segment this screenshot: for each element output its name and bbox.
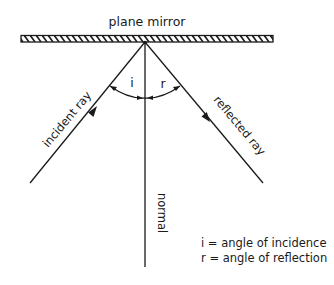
- reflection-diagram: plane mirror i r incident ray reflected …: [0, 0, 334, 285]
- incident-ray: [30, 42, 145, 183]
- arc-arrow-left-inner-icon: [137, 96, 143, 101]
- reflected-ray: [145, 42, 263, 183]
- reflected-arrow-icon: [202, 112, 211, 122]
- incident-ray-label: incident ray: [40, 88, 95, 150]
- angle-r-label: r: [160, 76, 166, 91]
- mirror-title: plane mirror: [109, 14, 187, 29]
- legend-angle-of-reflection: r = angle of reflection: [201, 251, 327, 265]
- plane-mirror: [21, 36, 273, 43]
- incident-arrow-icon: [88, 106, 97, 117]
- angle-i-label: i: [130, 75, 133, 90]
- arc-arrow-right-inner-icon: [147, 96, 153, 101]
- normal-label: normal: [155, 193, 169, 233]
- legend-angle-of-incidence: i = angle of incidence: [201, 236, 327, 250]
- reflected-ray-label: reflected ray: [211, 93, 269, 158]
